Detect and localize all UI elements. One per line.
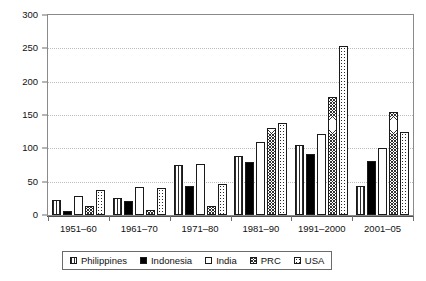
bar-prc [85, 206, 94, 215]
y-axis-tick-label: 150 [22, 110, 38, 120]
legend-label: Philippines [81, 256, 127, 266]
bar-prc [389, 112, 398, 215]
legend-swatch-icon [205, 257, 212, 264]
x-axis-tick-mark [413, 216, 414, 221]
bar-india [135, 187, 144, 215]
bars-layer [48, 15, 413, 215]
bar-prc [328, 97, 337, 215]
bar-philippines [356, 186, 365, 215]
legend-swatch-icon [250, 257, 257, 264]
legend-item-india: India [205, 256, 237, 266]
x-axis: 1951–601961–701971–801981–901991–2000200… [47, 216, 414, 240]
bar-usa [339, 46, 348, 215]
chart-legend: PhilippinesIndonesiaIndiaPRCUSA [62, 251, 332, 270]
bar-usa [96, 190, 105, 215]
bar-philippines [234, 156, 243, 215]
bar-india [256, 142, 265, 215]
y-axis-tick-label: 300 [22, 10, 38, 20]
bar-usa [400, 132, 409, 215]
bar-group [291, 15, 352, 215]
bar-group [170, 15, 231, 215]
x-axis-tick-mark [170, 216, 171, 221]
x-axis-tick-mark [352, 216, 353, 221]
legend-swatch-icon [70, 257, 77, 264]
bar-indonesia [63, 211, 72, 215]
y-axis-tick-label: 100 [22, 144, 38, 154]
bar-indonesia [185, 186, 194, 215]
legend-item-indonesia: Indonesia [140, 256, 192, 266]
y-axis-tick-label: 250 [22, 44, 38, 54]
x-axis-tick-label: 1961–70 [121, 223, 158, 234]
bar-india [317, 134, 326, 215]
y-axis: 050100150200250300 [0, 0, 47, 216]
bar-usa [218, 184, 227, 215]
legend-swatch-icon [140, 257, 147, 264]
bar-indonesia [367, 161, 376, 215]
legend-label: Indonesia [151, 256, 192, 266]
bar-group [109, 15, 170, 215]
bar-india [196, 164, 205, 215]
x-axis-tick-label: 1971–80 [182, 223, 219, 234]
bar-indonesia [124, 201, 133, 215]
bar-india [378, 148, 387, 215]
bar-prc [207, 206, 216, 215]
legend-item-prc: PRC [250, 256, 281, 266]
bar-india [74, 196, 83, 215]
bar-philippines [174, 165, 183, 215]
bar-indonesia [306, 154, 315, 215]
bar-group [48, 15, 109, 215]
x-axis-tick-label: 1981–90 [242, 223, 279, 234]
x-axis-tick-mark [109, 216, 110, 221]
bar-chart: 050100150200250300 1951–601961–701971–80… [0, 0, 426, 281]
y-axis-tick-label: 50 [27, 177, 38, 187]
bar-prc [146, 210, 155, 215]
bar-usa [157, 188, 166, 215]
bar-philippines [52, 200, 61, 215]
bar-philippines [113, 198, 122, 215]
x-axis-tick-label: 1991–2000 [298, 223, 346, 234]
legend-swatch-icon [294, 257, 301, 264]
x-axis-tick-label: 2001–05 [364, 223, 401, 234]
bar-indonesia [245, 162, 254, 215]
bar-group [352, 15, 413, 215]
bar-prc [267, 128, 276, 215]
y-axis-tick-label: 0 [33, 210, 38, 220]
x-axis-tick-mark [231, 216, 232, 221]
legend-label: USA [305, 256, 325, 266]
legend-item-usa: USA [294, 256, 325, 266]
x-axis-tick-label: 1951–60 [60, 223, 97, 234]
bar-philippines [295, 145, 304, 215]
bar-usa [278, 123, 287, 215]
legend-item-philippines: Philippines [70, 256, 127, 266]
x-axis-tick-mark [291, 216, 292, 221]
legend-label: PRC [261, 256, 281, 266]
bar-group [231, 15, 292, 215]
y-axis-tick-label: 200 [22, 77, 38, 87]
legend-label: India [216, 256, 237, 266]
x-axis-tick-mark [48, 216, 49, 221]
